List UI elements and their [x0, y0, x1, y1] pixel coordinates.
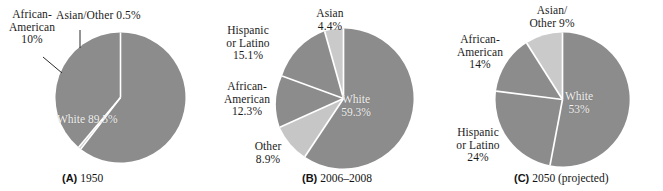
label-b-hispanic-line1: Hispanic	[217, 24, 279, 37]
label-a-african-american-line1: African-	[2, 8, 62, 21]
label-b-asian: Asian 4.4%	[304, 7, 356, 32]
label-b-aa-line1: African-	[215, 80, 279, 93]
label-b-african-american: African- American 12.3%	[215, 80, 279, 118]
label-a-white-line1: White 89.5%	[57, 113, 118, 126]
label-c-asian-other-line1: Asian/	[523, 4, 581, 17]
caption-a-letter: (A)	[62, 172, 77, 184]
pie-chart-figure: African- American 10% Asian/Other 0.5% W…	[0, 0, 663, 191]
label-a-african-american-line3: 10%	[2, 33, 62, 46]
caption-b-letter: (B)	[302, 172, 317, 184]
label-c-aa-line1: African-	[447, 33, 513, 46]
label-b-white-line1: White	[332, 93, 380, 106]
label-b-aa-line3: 12.3%	[215, 105, 279, 118]
label-a-african-american-line2: American	[2, 21, 62, 34]
label-b-white-line2: 59.3%	[332, 106, 380, 119]
label-c-white-line2: 53%	[557, 103, 601, 116]
chart-panel-c: Asian/ Other 9% African- American 14% Hi…	[447, 0, 663, 191]
label-a-african-american: African- American 10%	[2, 8, 62, 46]
label-c-white: White 53%	[557, 90, 601, 115]
label-c-asian-other-line2: Other 9%	[523, 17, 581, 30]
label-b-other-line1: Other	[246, 140, 290, 153]
label-c-aa-line2: American	[447, 46, 513, 59]
label-c-african-american: African- American 14%	[447, 33, 513, 71]
caption-b-text: 2006–2008	[320, 172, 372, 184]
caption-c-text: 2050 (projected)	[532, 172, 608, 184]
label-b-hispanic-line2: or Latino	[217, 37, 279, 50]
caption-c-letter: (C)	[514, 172, 529, 184]
caption-a-text: 1950	[80, 172, 103, 184]
label-b-other: Other 8.9%	[246, 140, 290, 165]
label-b-hispanic-or-latino: Hispanic or Latino 15.1%	[217, 24, 279, 62]
label-a-white: White 89.5%	[57, 113, 118, 126]
label-c-aa-line3: 14%	[447, 58, 513, 71]
caption-b: (B) 2006–2008	[302, 172, 372, 185]
label-c-white-line1: White	[557, 90, 601, 103]
label-c-asian-other: Asian/ Other 9%	[523, 4, 581, 29]
label-a-asian-other: Asian/Other 0.5%	[56, 9, 141, 22]
label-c-hispanic-line3: 24%	[446, 151, 510, 164]
label-b-asian-line2: 4.4%	[304, 20, 356, 33]
caption-c: (C) 2050 (projected)	[514, 172, 608, 185]
chart-panel-a: African- American 10% Asian/Other 0.5% W…	[0, 0, 221, 191]
label-c-hispanic-or-latino: Hispanic or Latino 24%	[446, 126, 510, 164]
label-a-asian-other-line1: Asian/Other 0.5%	[56, 9, 141, 22]
label-b-hispanic-line3: 15.1%	[217, 49, 279, 62]
label-b-white: White 59.3%	[332, 93, 380, 118]
label-b-aa-line2: American	[215, 93, 279, 106]
label-b-other-line2: 8.9%	[246, 153, 290, 166]
chart-panel-b: Asian 4.4% Hispanic or Latino 15.1% Afri…	[216, 0, 447, 191]
label-c-hispanic-line1: Hispanic	[446, 126, 510, 139]
caption-a: (A) 1950	[62, 172, 103, 185]
label-b-asian-line1: Asian	[304, 7, 356, 20]
label-c-hispanic-line2: or Latino	[446, 139, 510, 152]
